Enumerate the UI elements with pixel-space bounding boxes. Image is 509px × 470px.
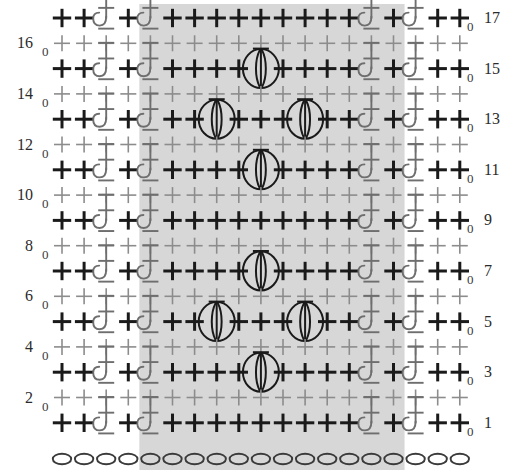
row-number-right-11: 11 — [484, 161, 499, 179]
turning-chain-left-14: 0 — [42, 95, 49, 111]
row-number-right-17: 17 — [484, 9, 500, 27]
row-number-left-10: 10 — [17, 186, 33, 204]
row-number-left-8: 8 — [25, 237, 33, 255]
post-stitch-hook — [93, 114, 106, 127]
chart-row — [54, 86, 468, 102]
turning-chain-right-1: 0 — [467, 424, 474, 440]
row-number-right-5: 5 — [484, 313, 492, 331]
turning-chain-left-10: 0 — [42, 196, 49, 212]
chain-stitch-icon — [75, 454, 93, 465]
post-stitch-hook — [93, 63, 106, 76]
row-number-right-13: 13 — [484, 110, 500, 128]
crochet-stitch-chart: 1716151413121110987654321000000000000000… — [0, 0, 509, 470]
post-stitch-hook — [93, 164, 106, 177]
post-stitch-hook — [93, 266, 106, 279]
turning-chain-left-8: 0 — [42, 247, 49, 263]
chain-stitch-icon — [53, 454, 71, 465]
turning-chain-right-5: 0 — [467, 323, 474, 339]
chain-stitch-icon — [119, 454, 137, 465]
post-stitch-hook — [93, 13, 106, 26]
chain-stitch-icon — [451, 454, 469, 465]
turning-chain-left-6: 0 — [42, 297, 49, 313]
chart-row — [53, 245, 469, 290]
row-number-left-12: 12 — [17, 136, 33, 154]
turning-chain-right-7: 0 — [467, 272, 474, 288]
turning-chain-right-15: 0 — [467, 70, 474, 86]
chart-row — [53, 144, 469, 189]
row-number-right-1: 1 — [484, 414, 492, 432]
row-number-left-16: 16 — [17, 34, 33, 52]
row-number-right-7: 7 — [484, 262, 492, 280]
turning-chain-left-4: 0 — [42, 348, 49, 364]
chain-stitch-icon — [406, 454, 424, 465]
turning-chain-left-12: 0 — [42, 146, 49, 162]
turning-chain-left-2: 0 — [42, 399, 49, 415]
chart-row — [53, 346, 469, 391]
repeat-region-shading — [139, 4, 404, 470]
turning-chain-right-13: 0 — [467, 120, 474, 136]
row-number-right-3: 3 — [484, 363, 492, 381]
post-stitch-hook — [93, 215, 106, 228]
turning-chain-right-3: 0 — [467, 373, 474, 389]
chart-canvas — [0, 0, 509, 470]
row-number-left-2: 2 — [25, 389, 33, 407]
row-number-right-15: 15 — [484, 60, 500, 78]
turning-chain-right-17: 0 — [467, 19, 474, 35]
chart-row — [53, 43, 469, 88]
post-stitch-hook — [93, 417, 106, 430]
turning-chain-right-9: 0 — [467, 221, 474, 237]
turning-chain-right-11: 0 — [467, 171, 474, 187]
chart-row — [54, 187, 468, 203]
row-number-left-14: 14 — [17, 85, 33, 103]
row-number-left-6: 6 — [25, 287, 33, 305]
turning-chain-left-16: 0 — [42, 44, 49, 60]
post-stitch-hook — [93, 367, 106, 380]
chain-stitch-icon — [429, 454, 447, 465]
post-stitch-hook — [93, 316, 106, 329]
row-number-left-4: 4 — [25, 338, 33, 356]
chart-row — [54, 390, 468, 406]
chart-row — [54, 288, 468, 304]
chain-stitch-icon — [97, 454, 115, 465]
row-number-right-9: 9 — [484, 211, 492, 229]
